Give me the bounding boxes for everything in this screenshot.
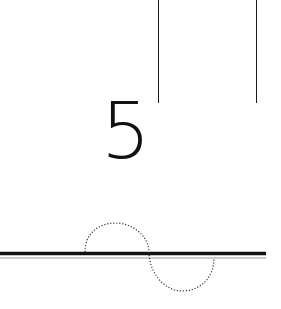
dotted-arc-upper — [85, 223, 149, 252]
line-and-curve-diagram — [0, 0, 281, 309]
